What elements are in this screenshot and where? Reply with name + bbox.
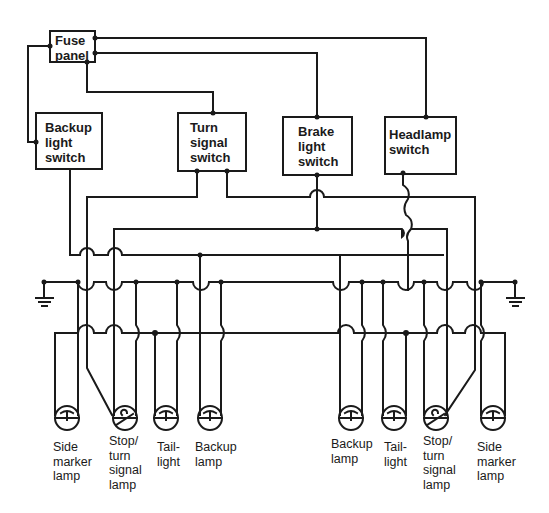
wire-left-marker xyxy=(55,282,78,415)
label-line: Tail- xyxy=(157,440,180,455)
label-line: panel xyxy=(55,48,89,63)
label-line: lamp xyxy=(331,452,373,467)
wire-fuse-to-headlamp xyxy=(95,38,426,117)
taillight-bus xyxy=(55,325,505,333)
label-line: switch xyxy=(298,154,338,169)
label-line: Turn xyxy=(190,120,230,135)
wire-left-backup xyxy=(200,282,224,415)
label-line: light xyxy=(384,455,407,470)
label-line: lamp xyxy=(195,455,237,470)
label-line: light xyxy=(157,455,180,470)
lamp-icon-side-marker-left xyxy=(55,406,79,430)
lamp-label-stop-turn-right: Stop/ turn signal lamp xyxy=(423,434,456,492)
label-line: lamp xyxy=(477,469,516,484)
lamp-label-side-marker-right: Side marker lamp xyxy=(477,440,516,484)
lamp-icon-backup-right xyxy=(339,406,363,430)
wire-fuse-to-brake xyxy=(95,53,317,117)
label-line: Side xyxy=(53,440,92,455)
label-line: lamp xyxy=(109,478,142,493)
wire-backup-switch-out xyxy=(70,169,443,255)
label-line: signal xyxy=(109,463,142,478)
label-line: switch xyxy=(389,142,451,157)
label-line: turn xyxy=(423,449,456,464)
wire-turn-left xyxy=(87,171,197,290)
label-line: Headlamp xyxy=(389,127,451,142)
label-line: light xyxy=(45,135,92,150)
wiring-diagram xyxy=(0,0,549,513)
label-line: signal xyxy=(423,463,456,478)
lamp-icon-stop-turn-right xyxy=(424,406,448,430)
turn-signal-switch-label: Turn signal switch xyxy=(190,120,230,165)
lamp-label-taillight-left: Tail- light xyxy=(157,440,180,469)
wire-right-marker xyxy=(481,282,505,415)
lamp-icon-side-marker-right xyxy=(481,406,505,430)
label-line: Backup xyxy=(331,437,373,452)
lamp-label-side-marker-left: Side marker lamp xyxy=(53,440,92,484)
label-line: Stop/ xyxy=(423,434,456,449)
wire-turn-right xyxy=(227,171,475,300)
wire-right-stopturn xyxy=(424,282,475,415)
lamp-label-backup-left: Backup lamp xyxy=(195,440,237,469)
lamp-icon-backup-left xyxy=(198,406,222,430)
label-line: lamp xyxy=(423,478,456,493)
wire-right-tail xyxy=(383,282,406,415)
ground-icon-left xyxy=(36,298,53,306)
label-line: Backup xyxy=(45,120,92,135)
label-line: Backup xyxy=(195,440,237,455)
brake-light-switch-label: Brake light switch xyxy=(298,124,338,169)
label-line: switch xyxy=(45,150,92,165)
lamp-icon-taillight-right xyxy=(382,406,406,430)
backup-light-switch-label: Backup light switch xyxy=(45,120,92,165)
wire-left-tail xyxy=(155,282,180,415)
lamp-icon-stop-turn-left xyxy=(113,406,137,430)
label-line: lamp xyxy=(53,469,92,484)
label-line: Fuse xyxy=(55,33,89,48)
label-line: marker xyxy=(53,455,92,470)
lamp-label-stop-turn-left: Stop/ turn signal lamp xyxy=(109,434,142,492)
label-line: Brake xyxy=(298,124,338,139)
label-line: light xyxy=(298,139,338,154)
headlamp-switch-label: Headlamp switch xyxy=(389,127,451,157)
label-line: switch xyxy=(190,150,230,165)
fuse-panel-label: Fuse panel xyxy=(55,33,89,63)
wire-brake-bus xyxy=(114,229,447,300)
label-line: Stop/ xyxy=(109,434,142,449)
wire-fuse-to-turn xyxy=(87,62,213,113)
label-line: signal xyxy=(190,135,230,150)
ground-icon-right xyxy=(507,298,524,306)
label-line: Tail- xyxy=(384,440,407,455)
wire-right-backup xyxy=(340,255,365,415)
lamp-icon-taillight-left xyxy=(154,406,178,430)
label-line: marker xyxy=(477,455,516,470)
lamp-label-taillight-right: Tail- light xyxy=(384,440,407,469)
label-line: turn xyxy=(109,449,142,464)
wire-left-stopturn xyxy=(87,282,139,415)
lamp-label-backup-right: Backup lamp xyxy=(331,437,373,466)
label-line: Side xyxy=(477,440,516,455)
